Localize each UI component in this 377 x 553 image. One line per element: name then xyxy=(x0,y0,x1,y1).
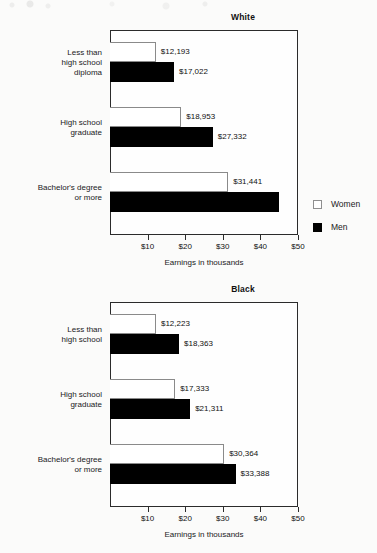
category-label: High school graduate xyxy=(14,390,102,410)
x-axis-tick-label: $10 xyxy=(133,514,163,523)
x-axis-tick xyxy=(185,235,186,240)
x-axis-title-white: Earnings in thousands xyxy=(110,258,298,267)
legend-item-men: Men xyxy=(313,222,348,232)
bar-value-label: $18,363 xyxy=(184,340,213,348)
x-axis-tick-label: $30 xyxy=(208,242,238,251)
chart-title-black: Black xyxy=(188,284,298,294)
bar-value-label: $12,223 xyxy=(161,320,190,328)
category-label: High school graduate xyxy=(14,118,102,138)
x-axis-title-black: Earnings in thousands xyxy=(110,530,298,539)
legend-label-men: Men xyxy=(331,222,348,232)
legend-label-women: Women xyxy=(331,199,360,209)
category-label: Bachelor's degree or more xyxy=(14,455,102,475)
x-axis-tick xyxy=(298,507,299,512)
category-label: Bachelor's degree or more xyxy=(14,183,102,203)
x-axis-tick xyxy=(148,507,149,512)
category-label: Less than high school diploma xyxy=(14,48,102,78)
x-axis-tick-label: $40 xyxy=(245,514,275,523)
x-axis-tick-label: $40 xyxy=(245,242,275,251)
bar-men xyxy=(110,334,179,354)
chart-panel-black: Black Less than high schoolHigh school g… xyxy=(0,280,377,553)
bar-women xyxy=(110,42,156,62)
x-axis-tick-label: $20 xyxy=(170,514,200,523)
bar-value-label: $17,333 xyxy=(180,385,209,393)
bar-value-label: $18,953 xyxy=(186,113,215,121)
bar-value-label: $27,332 xyxy=(218,133,247,141)
bar-value-label: $17,022 xyxy=(179,68,208,76)
bar-women xyxy=(110,379,175,399)
bar-value-label: $12,193 xyxy=(161,48,190,56)
x-axis-tick xyxy=(223,235,224,240)
bar-women xyxy=(110,107,181,127)
x-axis-tick xyxy=(223,507,224,512)
bar-men xyxy=(110,464,236,484)
x-axis-tick xyxy=(298,235,299,240)
chart-panel-white: White Less than high school diplomaHigh … xyxy=(0,0,377,280)
legend-item-women: Women xyxy=(313,199,360,209)
bar-value-label: $21,311 xyxy=(195,405,223,413)
bar-value-label: $33,388 xyxy=(241,470,270,478)
x-axis-tick xyxy=(185,507,186,512)
x-axis-tick xyxy=(260,235,261,240)
bar-men xyxy=(110,62,174,82)
bar-men xyxy=(110,127,213,147)
x-axis-tick xyxy=(148,235,149,240)
bar-women xyxy=(110,172,228,192)
bar-value-label: $30,364 xyxy=(229,450,258,458)
x-axis-tick-label: $50 xyxy=(283,242,313,251)
legend-swatch-men-icon xyxy=(313,223,322,232)
x-axis-tick-label: $10 xyxy=(133,242,163,251)
x-axis-tick-label: $30 xyxy=(208,514,238,523)
legend-swatch-women-icon xyxy=(313,200,322,209)
bar-men xyxy=(110,192,279,212)
category-label: Less than high school xyxy=(14,325,102,345)
x-axis-tick-label: $50 xyxy=(283,514,313,523)
bar-men xyxy=(110,399,190,419)
bar-women xyxy=(110,444,224,464)
chart-title-white: White xyxy=(188,12,298,22)
x-axis-tick-label: $20 xyxy=(170,242,200,251)
bar-women xyxy=(110,314,156,334)
x-axis-tick xyxy=(260,507,261,512)
bar-value-label: $31,441 xyxy=(233,178,262,186)
chart-page: White Less than high school diplomaHigh … xyxy=(0,0,377,553)
